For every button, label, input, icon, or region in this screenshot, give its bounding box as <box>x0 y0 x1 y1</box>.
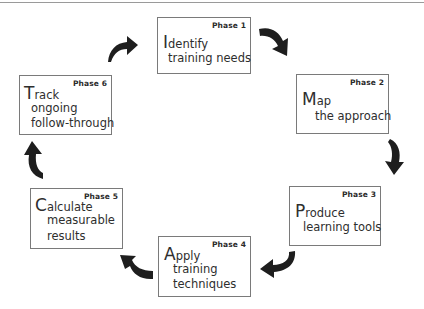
curved-arrow-down-right-icon <box>258 22 294 58</box>
phase-4-line-2: techniques <box>173 277 236 292</box>
curved-arrow-down-left-icon <box>258 250 296 282</box>
phase-1-line-1: training needs <box>168 51 251 66</box>
phase-1-title: Identify <box>163 35 208 52</box>
phase-3-line-1: learning tools <box>303 220 381 235</box>
phase-5-line-2: results <box>47 229 86 244</box>
phase-2-label: Phase 2 <box>350 78 384 87</box>
phase-3-initial: P <box>295 201 305 221</box>
phase-2-line-1: the approach <box>315 109 391 124</box>
curved-arrow-down-icon <box>382 138 406 176</box>
phase-5-line-1: measurable <box>47 213 115 228</box>
phase-3-title: Produce <box>295 204 345 221</box>
phase-2-box: Phase 2 Map the approach <box>296 74 389 134</box>
phase-6-line-1: ongoing <box>31 101 77 116</box>
phase-3-box: Phase 3 Produce learning tools <box>289 186 381 246</box>
phase-4-initial: A <box>164 244 176 264</box>
phase-1-label: Phase 1 <box>212 21 246 30</box>
phase-1-word: dentify <box>168 37 208 51</box>
phase-4-box: Phase 4 Apply training techniques <box>158 236 251 297</box>
phase-2-initial: M <box>302 89 317 109</box>
phase-6-initial: T <box>24 83 34 103</box>
phase-5-initial: C <box>35 195 47 215</box>
phase-1-box: Phase 1 Identify training needs <box>157 17 251 74</box>
phase-5-word: alculate <box>47 200 93 214</box>
top-rule <box>0 2 424 3</box>
phase-6-box: Phase 6 Track ongoing follow-through <box>19 75 112 135</box>
phase-4-label: Phase 4 <box>212 240 246 249</box>
phase-6-label: Phase 6 <box>73 79 107 88</box>
curved-arrow-up-right-icon <box>106 30 142 64</box>
phase-6-word: rack <box>34 88 59 102</box>
phase-5-box: Phase 5 Calculate measurable results <box>30 188 123 249</box>
phase-2-word: ap <box>317 94 331 108</box>
phase-6-line-2: follow-through <box>31 116 114 131</box>
curved-arrow-up-left-icon <box>118 254 154 280</box>
curved-arrow-up-icon <box>21 140 45 180</box>
phase-3-label: Phase 3 <box>342 190 376 199</box>
phase-3-word: roduce <box>305 206 345 220</box>
phase-4-word: pply <box>176 249 201 263</box>
phase-4-line-1: training <box>173 262 218 277</box>
phase-2-title: Map <box>302 92 331 109</box>
